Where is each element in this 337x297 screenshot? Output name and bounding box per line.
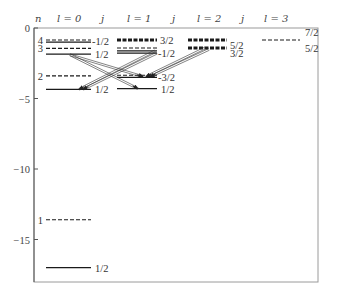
j-label: 1/2 xyxy=(161,84,174,95)
column-headers: n l = 0 j l = 1 j l = 2 j l = 3 xyxy=(35,13,288,24)
j-label: 3/2 xyxy=(230,48,243,59)
tick-label: −5 xyxy=(19,94,30,105)
header-n: n xyxy=(35,13,41,24)
header-j1: j xyxy=(170,13,175,24)
n-label: 3 xyxy=(38,43,43,54)
j-label: 1/2 xyxy=(95,49,108,60)
j-label: 1/2 xyxy=(95,84,108,95)
j-label: 3/2 xyxy=(160,35,173,46)
plot-frame xyxy=(34,28,318,282)
tick-label: 0 xyxy=(25,23,30,34)
header-j2: j xyxy=(239,13,244,24)
j-label: -1/2 xyxy=(92,36,109,47)
tick-label: −10 xyxy=(14,164,30,175)
header-j0: j xyxy=(99,13,104,24)
transition-line xyxy=(79,50,155,88)
header-l2: l = 2 xyxy=(197,13,221,24)
n-label: 1 xyxy=(38,215,43,226)
transition-line xyxy=(83,52,157,88)
n-label: 2 xyxy=(38,71,43,82)
header-l3: l = 3 xyxy=(264,13,288,24)
j-label: 1/2 xyxy=(95,263,108,274)
j-label: 7/2 xyxy=(305,27,318,38)
j-label: -3/2 xyxy=(158,72,175,83)
header-l0: l = 0 xyxy=(57,13,82,24)
j-label: 5/2 xyxy=(305,43,318,54)
transition-line xyxy=(146,47,205,76)
tick-label: −15 xyxy=(14,235,30,246)
level-labels: 4-1/231/221/211/23/2-1/2-3/21/25/23/27/2… xyxy=(38,27,319,274)
energy-level-diagram: n l = 0 j l = 1 j l = 2 j l = 3 0−5−10−1… xyxy=(0,0,337,297)
j-label: -1/2 xyxy=(158,48,175,59)
header-l1: l = 1 xyxy=(127,13,151,24)
